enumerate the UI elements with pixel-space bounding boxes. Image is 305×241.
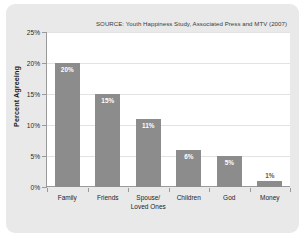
category-label-line: Family <box>47 194 88 203</box>
y-axis-tick-labels: 0%5%10%15%20%25% <box>8 32 40 188</box>
x-axis-category-label: Money <box>250 194 291 211</box>
x-axis-category-label: Spouse/Loved Ones <box>128 194 169 211</box>
bar-cell: 6% <box>169 32 210 187</box>
chart-figure: SOURCE: Youth Happiness Study, Associate… <box>0 0 305 241</box>
bar[interactable]: 5% <box>217 156 242 187</box>
x-axis-tick-mark <box>250 188 251 192</box>
bar-value-label: 20% <box>61 66 74 73</box>
x-axis-category-label: God <box>209 194 250 211</box>
y-axis-tick-mark <box>42 63 46 64</box>
bar[interactable]: 6% <box>176 150 201 187</box>
x-axis-tick-mark <box>169 188 170 192</box>
x-axis-tick-mark <box>128 188 129 192</box>
y-axis-tick-mark <box>42 32 46 33</box>
category-label-line: Friends <box>88 194 129 203</box>
x-axis-tick-mark <box>290 188 291 192</box>
y-axis-tick-label: 10% <box>10 122 40 129</box>
bar-series: 20%15%11%6%5%1% <box>47 32 290 187</box>
x-axis-tick-marks <box>47 188 290 192</box>
bar-value-label: 1% <box>265 172 274 179</box>
y-axis-tick-mark <box>42 125 46 126</box>
x-axis-tick-mark <box>47 188 48 192</box>
bar[interactable]: 20% <box>55 63 80 187</box>
bar[interactable]: 1% <box>257 181 282 187</box>
y-axis-tick-label: 5% <box>10 153 40 160</box>
bar-value-label: 6% <box>184 153 193 160</box>
x-axis-category-labels: FamilyFriendsSpouse/Loved OnesChildrenGo… <box>47 194 290 211</box>
y-axis-tick-label: 20% <box>10 60 40 67</box>
bar-cell: 11% <box>128 32 169 187</box>
bar-value-label: 5% <box>225 159 234 166</box>
x-axis-category-label: Children <box>169 194 210 211</box>
bar[interactable]: 11% <box>136 119 161 187</box>
bar-cell: 1% <box>250 32 291 187</box>
bar[interactable]: 15% <box>95 94 120 187</box>
category-label-line: Money <box>250 194 291 203</box>
bar-cell: 15% <box>88 32 129 187</box>
y-axis-tick-mark <box>42 94 46 95</box>
y-axis-tick-label: 25% <box>10 29 40 36</box>
x-axis-category-label: Friends <box>88 194 129 211</box>
y-axis-tick-label: 0% <box>10 184 40 191</box>
bar-cell: 20% <box>47 32 88 187</box>
bar-value-label: 15% <box>101 97 114 104</box>
y-axis-tick-mark <box>42 156 46 157</box>
y-axis-tick-mark <box>42 187 46 188</box>
category-label-line: Spouse/ <box>128 194 169 203</box>
category-label-line: God <box>209 194 250 203</box>
category-label-line: Loved Ones <box>128 203 169 212</box>
bar-value-label: 11% <box>142 122 154 129</box>
x-axis-tick-mark <box>209 188 210 192</box>
y-axis-tick-label: 15% <box>10 91 40 98</box>
chart-source-note: SOURCE: Youth Happiness Study, Associate… <box>96 20 298 27</box>
x-axis-category-label: Family <box>47 194 88 211</box>
category-label-line: Children <box>169 194 210 203</box>
bar-cell: 5% <box>209 32 250 187</box>
x-axis-tick-mark <box>88 188 89 192</box>
